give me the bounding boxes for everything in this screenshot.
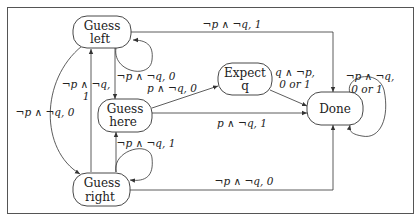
node-expect-q-line2: q xyxy=(241,79,249,93)
node-guess-here-line1: Guess xyxy=(107,102,144,116)
node-guess-left-line1: Guess xyxy=(84,19,121,33)
label-expect-q-to-done-1: q ∧ ¬p, xyxy=(275,66,315,78)
node-guess-left-line2: left xyxy=(90,32,110,46)
label-guess-right-to-done: ¬p ∧ ¬q, 0 xyxy=(215,175,274,187)
label-guess-left-to-guess-right: ¬p ∧ ¬q, 0 xyxy=(16,106,75,118)
node-expect-q-line1: Expect xyxy=(224,66,266,80)
node-guess-right-line2: right xyxy=(85,190,115,204)
label-guess-here-to-expect-q: p ∧ ¬q, 0 xyxy=(147,82,197,94)
label-guess-left-to-done: ¬p ∧ ¬q, 1 xyxy=(203,18,262,30)
label-expect-q-to-done-2: 0 or 1 xyxy=(279,78,310,90)
state-diagram: Guess left Guess here Guess right Expect… xyxy=(0,0,420,221)
label-guess-left-self: ¬p ∧ ¬q, 0 xyxy=(117,70,176,82)
node-guess-here-line2: here xyxy=(109,115,137,129)
label-guess-here-to-done: p ∧ ¬q, 1 xyxy=(217,117,267,129)
label-done-self-2: 0 or 1 xyxy=(351,83,382,95)
node-guess-right-line1: Guess xyxy=(84,176,121,190)
edge-expect-q-to-done xyxy=(270,90,307,106)
label-guess-right-to-guess-left-2: 1 xyxy=(83,90,90,102)
node-done-label: Done xyxy=(319,102,351,116)
label-done-self-1: ¬p ∧ ¬q, xyxy=(346,70,395,82)
label-guess-right-to-guess-left-1: ¬p ∧ ¬q, xyxy=(62,78,111,90)
label-guess-right-self: ¬p ∧ ¬q, 1 xyxy=(117,137,176,149)
